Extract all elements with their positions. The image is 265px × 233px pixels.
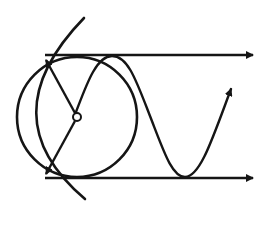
diagram-svg	[0, 0, 265, 233]
diagram-canvas	[0, 0, 265, 233]
center-point	[73, 113, 81, 121]
sine-wave	[76, 56, 231, 177]
radius-arrow-up	[46, 60, 75, 113]
radius-arrow-down	[46, 121, 75, 174]
